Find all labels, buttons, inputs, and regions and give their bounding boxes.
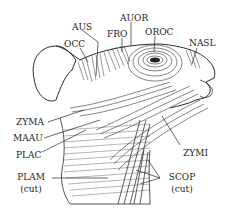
label-scop-name: SCOP [164,172,200,182]
label-scop: SCOP (cut) [164,172,200,194]
label-auor: AUOR [120,13,148,23]
label-oroc: OROC [145,27,173,37]
label-plam-name: PLAM [14,172,48,182]
label-occ: OCC [64,39,85,49]
eye [150,58,160,63]
ear-outline [33,46,76,101]
label-fro: FRO [107,29,127,39]
label-nasl: NASL [189,38,216,48]
orbicularis-oculi [128,45,182,81]
label-scop-note: (cut) [164,184,200,194]
label-zymi: ZYMI [183,148,208,158]
label-plam-note: (cut) [14,184,48,194]
label-aus: AUS [72,22,92,32]
label-plam: PLAM (cut) [14,172,48,194]
label-plac: PLAC [16,150,41,160]
label-zyma: ZYMA [16,117,44,127]
label-maau: MAAU [13,133,43,143]
